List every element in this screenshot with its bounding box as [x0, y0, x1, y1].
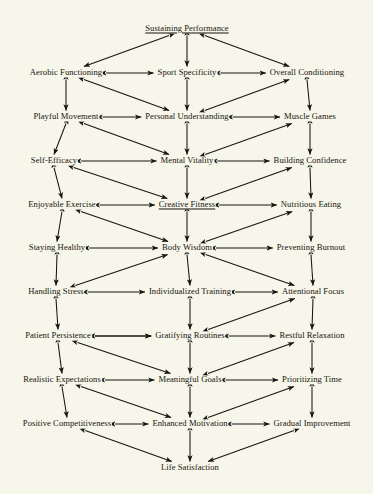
node-restful-relaxation: Restful Relaxation	[278, 331, 345, 340]
node-patient-persistence: Patient Persistence	[24, 331, 92, 340]
edge-body-wisdom-to-nutritious-eating	[206, 212, 292, 242]
edge-self-efficacy-to-creative-fitness	[74, 168, 168, 199]
node-positive-competitiveness: Positive Competitiveness	[22, 419, 112, 428]
edge-body-wisdom-to-individualized-training	[187, 255, 190, 286]
node-body-wisdom: Body Wisdom	[161, 243, 213, 252]
node-staying-healthy: Staying Healthy	[28, 243, 86, 252]
edge-enjoyable-exercise-to-body-wisdom	[81, 212, 168, 242]
edge-enhanced-motivation-to-prioritizing-time	[208, 387, 294, 418]
edge-personal-understanding-to-overall-conditioning	[205, 80, 290, 111]
node-sustaining-performance: Sustaining Performance	[144, 24, 229, 33]
edge-attentional-focus-to-restful-relaxation	[312, 299, 313, 330]
edge-realistic-expectations-to-positive-competitiveness	[62, 387, 67, 418]
node-realistic-expectations: Realistic Expectations	[22, 375, 102, 384]
edge-aerobic-functioning-to-personal-understanding	[84, 80, 169, 111]
node-playful-movement: Playful Movement	[32, 112, 99, 121]
edge-building-confidence-to-nutritious-eating	[310, 168, 311, 199]
edge-gradual-improvement-to-life-satisfaction	[208, 431, 294, 462]
node-sport-specificity: Sport Specificity	[157, 68, 218, 77]
edge-positive-competitiveness-to-life-satisfaction	[85, 431, 172, 462]
node-meaningful-goals: Meaningful Goals	[157, 375, 222, 384]
node-creative-fitness: Creative Fitness	[158, 200, 216, 209]
node-self-efficacy: Self-Efficacy	[30, 156, 78, 165]
edge-body-wisdom-to-attentional-focus	[206, 255, 295, 286]
edge-gratifying-routines-to-attentional-focus	[208, 299, 295, 330]
node-attentional-focus: Attentional Focus	[281, 287, 345, 296]
edge-handling-stress-to-patient-persistence	[56, 299, 58, 330]
edge-staying-healthy-to-handling-stress	[56, 255, 57, 286]
node-mental-vitality: Mental Vitality	[160, 156, 215, 165]
edge-self-efficacy-to-enjoyable-exercise	[54, 168, 62, 199]
node-nutritious-eating: Nutritious Eating	[280, 200, 342, 209]
node-preventing-burnout: Preventing Burnout	[276, 243, 346, 252]
edge-playful-movement-to-self-efficacy	[54, 124, 66, 155]
node-handling-stress: Handling Stress	[27, 287, 84, 296]
edge-realistic-expectations-to-enhanced-motivation	[81, 387, 171, 418]
edge-overall-conditioning-to-muscle-games	[307, 80, 310, 111]
edge-playful-movement-to-mental-vitality	[84, 124, 169, 155]
node-individualized-training: Individualized Training	[148, 287, 232, 296]
node-life-satisfaction: Life Satisfaction	[160, 463, 220, 472]
edge-handling-stress-to-body-wisdom	[75, 255, 167, 286]
edge-patient-persistence-to-realistic-expectations	[58, 343, 62, 374]
edge-sustaining-performance-to-aerobic-functioning	[84, 36, 169, 67]
edge-patient-persistence-to-meaningful-goals	[78, 343, 171, 374]
node-enjoyable-exercise: Enjoyable Exercise	[27, 200, 96, 209]
node-gratifying-routines: Gratifying Routines	[154, 331, 225, 340]
node-aerobic-functioning: Aerobic Functioning	[29, 68, 103, 77]
edge-sustaining-performance-to-overall-conditioning	[205, 36, 290, 67]
concept-map-diagram: Sustaining PerformanceAerobic Functionin…	[0, 0, 373, 494]
node-personal-understanding: Personal Understanding	[144, 112, 229, 121]
node-gradual-improvement: Gradual Improvement	[272, 419, 351, 428]
node-enhanced-motivation: Enhanced Motivation	[151, 419, 228, 428]
edge-creative-fitness-to-building-confidence	[205, 168, 292, 199]
node-prioritizing-time: Prioritizing Time	[281, 375, 343, 384]
edge-enjoyable-exercise-to-staying-healthy	[57, 212, 62, 242]
edge-meaningful-goals-to-restful-relaxation	[208, 343, 294, 374]
edge-preventing-burnout-to-attentional-focus	[311, 255, 313, 286]
node-muscle-games: Muscle Games	[283, 112, 337, 121]
node-overall-conditioning: Overall Conditioning	[269, 68, 345, 77]
node-building-confidence: Building Confidence	[273, 156, 348, 165]
edge-mental-vitality-to-muscle-games	[205, 124, 292, 155]
